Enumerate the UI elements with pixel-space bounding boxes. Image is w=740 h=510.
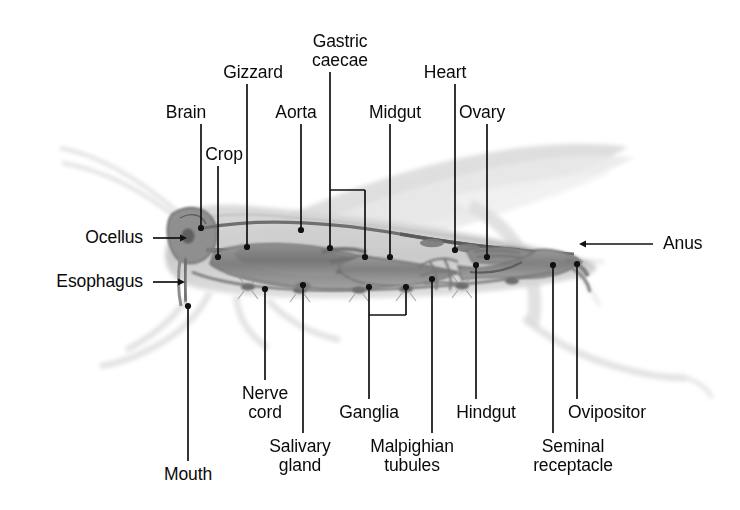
antennae (60, 148, 182, 222)
leader-dot-hindgut (473, 262, 479, 268)
leader-dot-crop (215, 254, 221, 260)
leader-dot-ganglia-b (403, 284, 409, 290)
label-ovipositor: Ovipositor (568, 403, 646, 422)
label-seminal-receptacle: Seminal receptacle (533, 437, 613, 475)
label-malpighian-tubules: Malpighian tubules (370, 437, 454, 475)
label-esophagus: Esophagus (56, 272, 143, 291)
label-heart: Heart (424, 63, 466, 82)
label-aorta: Aorta (275, 103, 316, 122)
label-gastric-caecae: Gastric caecae (312, 32, 368, 70)
leader-dot-malpighian-tubules (429, 276, 435, 282)
label-salivary-gland: Salivary gland (269, 437, 330, 475)
label-midgut: Midgut (369, 103, 421, 122)
leader-dot-midgut (387, 254, 393, 260)
leader-dot-gastric-caecae-b (362, 254, 368, 260)
grasshopper-illustration (0, 0, 740, 510)
label-gizzard: Gizzard (223, 63, 283, 82)
leader-dot-ovipositor (574, 261, 580, 267)
leader-dot-nerve-cord (262, 286, 268, 292)
leader-dot-aorta (298, 227, 304, 233)
label-brain: Brain (166, 103, 206, 122)
leader-dot-ganglia-a (366, 284, 372, 290)
leader-dot-mouth (185, 303, 191, 309)
label-mouth: Mouth (164, 465, 212, 484)
label-anus: Anus (663, 234, 703, 253)
label-hindgut: Hindgut (456, 403, 516, 422)
label-ovary: Ovary (459, 103, 505, 122)
leader-dot-seminal-receptacle (550, 262, 556, 268)
leader-dot-gizzard (244, 244, 250, 250)
leader-dot-salivary-gland (300, 282, 306, 288)
label-crop: Crop (205, 145, 243, 164)
leader-dot-ovary (484, 254, 490, 260)
leader-dot-brain (198, 225, 204, 231)
arrowhead-anus (579, 240, 586, 247)
label-nerve-cord: Nerve cord (242, 384, 288, 422)
leader-dot-gastric-caecae-a (327, 245, 333, 251)
label-ganglia: Ganglia (339, 403, 399, 422)
leader-dot-heart (452, 247, 458, 253)
anatomy-figure: BrainCropGizzardAortaGastric caecaeMidgu… (0, 0, 740, 510)
legs (100, 292, 340, 366)
label-ocellus: Ocellus (85, 228, 143, 247)
